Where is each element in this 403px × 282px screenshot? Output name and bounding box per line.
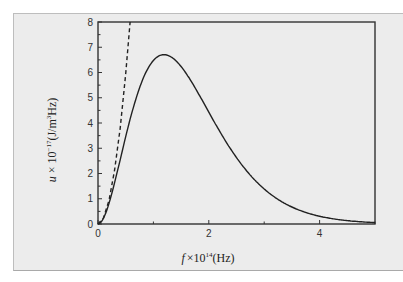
y-tick-label: 4: [87, 118, 93, 129]
y-tick-label: 2: [87, 168, 93, 179]
planck-curve: [98, 55, 375, 224]
x-tick-label: 0: [95, 228, 101, 239]
y-tick-label: 8: [87, 17, 93, 28]
rayleigh-jeans-curve: [98, 22, 130, 224]
axis-ticks: 012345678024: [87, 17, 375, 240]
y-tick-label: 6: [87, 67, 93, 78]
x-tick-label: 2: [206, 228, 212, 239]
x-axis-label: f×1014(Hz): [181, 251, 234, 265]
y-tick-label: 5: [87, 92, 93, 103]
y-tick-label: 7: [87, 42, 93, 53]
y-tick-label: 1: [87, 193, 93, 204]
y-tick-label: 0: [87, 219, 93, 230]
plot-border: [98, 22, 375, 224]
y-axis-label: u × 10−17(J/m3Hz): [45, 98, 59, 183]
x-tick-label: 4: [317, 228, 323, 239]
y-tick-label: 3: [87, 143, 93, 154]
series-group: [98, 22, 375, 224]
plot-frame: [98, 22, 375, 224]
